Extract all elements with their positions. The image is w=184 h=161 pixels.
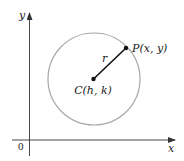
circle-diagram: y x 0 r P(x, y) C(h, k) <box>0 0 184 161</box>
x-axis-label: x <box>168 142 175 155</box>
point-label: P(x, y) <box>131 42 167 55</box>
radius-label: r <box>102 52 108 65</box>
point-p <box>124 46 128 50</box>
center-label: C(h, k) <box>74 84 112 97</box>
origin-label: 0 <box>18 140 24 152</box>
center-point <box>91 77 95 81</box>
y-axis-label: y <box>18 9 26 22</box>
radius-line <box>94 48 127 79</box>
